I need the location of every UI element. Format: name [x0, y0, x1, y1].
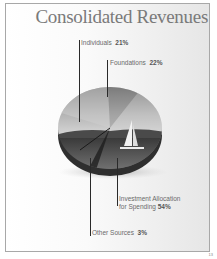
- label-foundations-value: 22%: [149, 59, 162, 66]
- label-investment: Investment Allocation for Spending 54%: [119, 195, 180, 211]
- label-foundations: Foundations 22%: [110, 59, 162, 67]
- label-individuals-value: 21%: [115, 39, 128, 46]
- page-number: 13: [209, 252, 213, 257]
- leader-line-other: [90, 158, 91, 236]
- leader-line-foundations: [107, 60, 108, 97]
- label-investment-name-line1: Investment Allocation: [119, 195, 180, 203]
- label-other: Other Sources 3%: [92, 229, 147, 237]
- label-investment-name-line2: for Spending: [119, 203, 156, 210]
- label-individuals: Individuals 21%: [81, 39, 128, 47]
- label-other-value: 3%: [138, 229, 147, 236]
- label-foundations-name: Foundations: [110, 59, 146, 66]
- leader-line-investment: [117, 158, 118, 206]
- label-other-name: Other Sources: [92, 229, 134, 236]
- leader-line-individuals: [79, 40, 80, 122]
- label-individuals-name: Individuals: [81, 39, 112, 46]
- label-investment-value: 54%: [158, 203, 171, 210]
